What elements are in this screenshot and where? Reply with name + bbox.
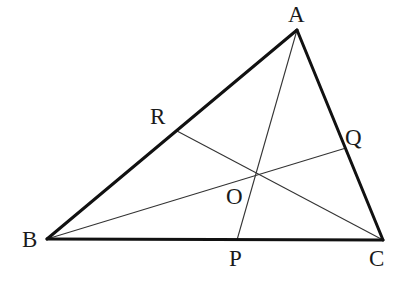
triangle-cevians-diagram: A B C R Q P O	[0, 0, 412, 291]
vertex-label-b: B	[22, 227, 37, 252]
point-label-o: O	[226, 184, 243, 209]
cevian-ap	[237, 30, 297, 240]
point-label-p: P	[229, 246, 242, 271]
point-label-q: Q	[345, 125, 362, 150]
cevian-bq	[47, 148, 346, 239]
side-ab	[47, 30, 297, 239]
vertex-label-a: A	[288, 2, 305, 27]
side-ca	[297, 30, 383, 240]
side-bc	[47, 239, 383, 240]
vertex-label-c: C	[369, 246, 384, 271]
point-label-r: R	[150, 104, 166, 129]
